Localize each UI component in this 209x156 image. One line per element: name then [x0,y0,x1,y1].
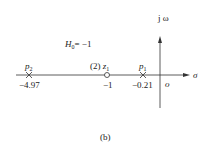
zero-order: (2) [90,61,101,71]
caption: (b) [100,133,111,142]
zero-z1-name: (2) z1 [90,62,109,72]
zero-z1-marker-icon [105,73,110,78]
gain-label: H0= −1 [65,40,91,50]
zero-z1-sub: 1 [106,66,109,72]
pole-p2-name: p2 [25,62,33,72]
zero-z1-value: −1 [103,81,113,90]
imag-axis-arrow-icon [158,36,162,43]
pole-p2-value: −4.97 [19,81,40,90]
real-axis-arrow-icon [183,73,190,77]
real-axis-label: σ [193,71,197,80]
imag-axis-label: j ω [158,14,169,23]
origin-label: o [165,80,170,89]
gain-value: = −1 [75,39,92,49]
pole-p1-name: p1 [139,62,147,72]
pole-p2-sub: 2 [30,66,33,72]
pole-p1-sub: 1 [144,66,147,72]
pole-p1-value: −0.21 [132,81,153,90]
